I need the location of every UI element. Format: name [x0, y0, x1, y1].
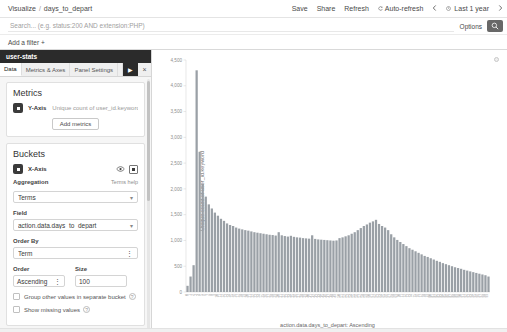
breadcrumb-separator: / [39, 5, 41, 12]
aggregation-label: Aggregation [13, 179, 48, 185]
query-options-group: Options [460, 20, 503, 32]
aggregation-field-row: Aggregation Terms help [13, 179, 138, 188]
time-range-picker[interactable]: Last 1 year [446, 5, 489, 12]
breadcrumb: Visualize/days_to_depart [8, 5, 92, 12]
x-axis-bucket-row[interactable]: X-Axis [13, 164, 138, 174]
svg-text:3,500: 3,500 [171, 109, 183, 114]
collapse-icon[interactable] [13, 164, 23, 174]
time-next-button[interactable] [498, 5, 503, 12]
add-metrics-button[interactable]: Add metrics [52, 118, 100, 130]
y-axis-metric-row[interactable]: Y-Axis Unique count of user_id.keyword [13, 103, 138, 113]
svg-text:2,000: 2,000 [171, 187, 183, 192]
buckets-heading: Buckets [13, 149, 138, 159]
bottom-strip [0, 328, 507, 332]
field-label: Field [13, 210, 138, 216]
bucket-actions [116, 165, 138, 174]
x-axis-label: X-Axis [28, 166, 47, 172]
vertical-dots-icon: ⋮ [126, 251, 133, 256]
size-input[interactable]: 100 [75, 275, 127, 287]
y-axis-label: Y-Axis [28, 105, 46, 111]
options-button[interactable]: Options [460, 23, 482, 30]
plus-icon: + [41, 39, 45, 46]
help-icon[interactable]: ? [83, 306, 90, 313]
share-button[interactable]: Share [317, 5, 336, 12]
breadcrumb-root[interactable]: Visualize [8, 5, 36, 12]
breadcrumb-current: days_to_depart [44, 5, 92, 12]
svg-text:99: 99 [485, 294, 489, 298]
size-column: Size 100 [75, 266, 127, 287]
svg-text:2,500: 2,500 [171, 161, 183, 166]
sidebar-scroll-area: Metrics Y-Axis Unique count of user_id.k… [0, 77, 151, 332]
svg-text:4,500: 4,500 [171, 58, 183, 63]
search-icon [491, 22, 499, 30]
field-select[interactable]: action.data.days_to_depart ▾ [13, 219, 138, 231]
svg-text:4,000: 4,000 [171, 83, 183, 88]
save-button[interactable]: Save [292, 5, 308, 12]
show-missing-values-label: Show missing values [24, 307, 80, 313]
search-submit-button[interactable] [487, 20, 503, 32]
svg-text:1,500: 1,500 [171, 212, 183, 217]
help-icon[interactable]: ? [129, 293, 136, 300]
order-by-label: Order By [13, 238, 138, 244]
metrics-card: Metrics Y-Axis Unique count of user_id.k… [6, 82, 145, 137]
discard-changes-button[interactable]: × [138, 63, 151, 76]
show-missing-values-checkbox[interactable] [13, 306, 20, 313]
refresh-icon [378, 5, 383, 12]
buckets-card: Buckets X-Axis Aggregation T [6, 143, 145, 326]
editor-tabs: Data Metrics & Axes Panel Settings ▶ × [0, 63, 151, 77]
order-size-row: Order Ascending ⋮ Size 100 [13, 266, 138, 287]
chevron-down-icon: ▾ [130, 222, 133, 229]
histogram-chart[interactable]: 05001,0001,5002,0002,5003,0003,5004,0004… [154, 54, 494, 322]
order-label: Order [13, 266, 65, 272]
chart-container: Unique count of user_id.keyword 05001,00… [154, 54, 501, 328]
tab-panel-settings[interactable]: Panel Settings [70, 63, 118, 76]
field-value: action.data.days_to_depart [18, 222, 127, 229]
y-axis-value: Unique count of user_id.keyword [52, 105, 138, 111]
filter-bar: Add a filter + [0, 35, 507, 50]
order-by-select[interactable]: Term ⋮ [13, 247, 138, 259]
search-input[interactable]: Search... (e.g. status:200 AND extension… [8, 20, 454, 32]
svg-text:1,000: 1,000 [171, 238, 183, 243]
metrics-heading: Metrics [13, 88, 138, 98]
chart-panel: Unique count of user_id.keyword 05001,00… [152, 50, 507, 332]
aggregation-select[interactable]: Terms ▾ [13, 191, 138, 203]
editor-body: user-stats Data Metrics & Axes Panel Set… [0, 50, 507, 332]
eye-icon[interactable] [116, 166, 125, 173]
refresh-button[interactable]: Refresh [344, 5, 369, 12]
terms-help-link[interactable]: Terms help [111, 179, 138, 185]
add-filter-button[interactable]: Add a filter + [8, 39, 45, 46]
clock-icon [446, 5, 451, 12]
vertical-dots-icon: ⋮ [54, 279, 61, 284]
add-filter-label: Add a filter [8, 39, 39, 46]
apply-changes-button[interactable]: ▶ [123, 63, 138, 76]
auto-refresh-label: Auto-refresh [385, 5, 424, 12]
group-other-values-row[interactable]: Group other values in separate bucket ? [13, 293, 138, 300]
panel-title: user-stats [0, 50, 151, 63]
svg-text:0: 0 [179, 290, 182, 295]
collapse-icon[interactable] [13, 103, 23, 113]
visualization-editor-sidebar: user-stats Data Metrics & Axes Panel Set… [0, 50, 152, 332]
time-prev-button[interactable] [432, 5, 437, 12]
tab-data[interactable]: Data [0, 63, 22, 76]
size-label: Size [75, 266, 127, 272]
tab-metrics-and-axes[interactable]: Metrics & Axes [22, 63, 71, 76]
sidebar-scrollbar-thumb[interactable] [147, 81, 150, 201]
svg-text:3,000: 3,000 [171, 135, 183, 140]
top-nav-actions: Save Share Refresh Auto-refresh Last 1 y… [292, 5, 503, 12]
query-bar: Search... (e.g. status:200 AND extension… [0, 18, 507, 35]
svg-text:500: 500 [174, 264, 182, 269]
order-by-value: Term [18, 250, 126, 257]
remove-bucket-icon[interactable] [129, 165, 138, 174]
time-range-label: Last 1 year [454, 5, 489, 12]
order-value: Ascending [17, 278, 54, 285]
auto-refresh-button[interactable]: Auto-refresh [378, 5, 424, 12]
group-other-values-checkbox[interactable] [13, 293, 20, 300]
order-column: Order Ascending ⋮ [13, 266, 65, 287]
show-missing-values-row[interactable]: Show missing values ? [13, 306, 138, 313]
order-select[interactable]: Ascending ⋮ [13, 275, 65, 287]
group-other-values-label: Group other values in separate bucket [24, 294, 126, 300]
aggregation-value: Terms [18, 194, 127, 201]
top-bar: Visualize/days_to_depart Save Share Refr… [0, 0, 507, 18]
kibana-visualize-app: Visualize/days_to_depart Save Share Refr… [0, 0, 507, 332]
chevron-down-icon: ▾ [130, 194, 133, 201]
